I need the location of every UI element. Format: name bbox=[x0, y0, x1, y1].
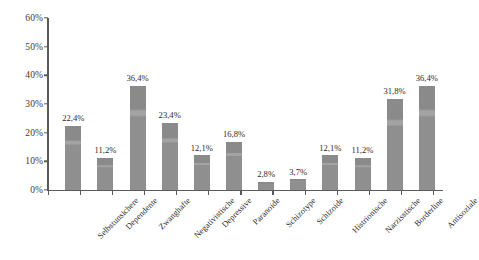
bar-value-label: 22,4% bbox=[62, 113, 84, 123]
bar[interactable] bbox=[226, 142, 242, 190]
x-axis-category-labels: SelbstunsichereDependenteZwanghafteNegat… bbox=[47, 196, 447, 258]
x-axis-tick-mark bbox=[305, 191, 306, 196]
x-axis-tick-mark bbox=[112, 191, 113, 196]
y-axis-tick-label: 0% bbox=[30, 185, 43, 195]
bar-group: 12,1% bbox=[314, 18, 346, 190]
bar[interactable] bbox=[65, 126, 81, 190]
bar[interactable] bbox=[258, 182, 274, 190]
y-axis-tick-mark bbox=[44, 75, 48, 76]
bar[interactable] bbox=[419, 86, 435, 190]
bar[interactable] bbox=[322, 155, 338, 190]
bar-group: 2,8% bbox=[250, 18, 282, 190]
bar-group: 3,7% bbox=[282, 18, 314, 190]
y-axis-tick-label: 50% bbox=[25, 42, 43, 52]
x-axis-tick-mark bbox=[80, 191, 81, 196]
y-axis-tick-mark bbox=[44, 46, 48, 47]
bar-group: 12,1% bbox=[186, 18, 218, 190]
bar[interactable] bbox=[290, 179, 306, 190]
x-axis-tick-mark bbox=[208, 191, 209, 196]
x-axis-tick-mark bbox=[144, 191, 145, 196]
bar-value-label: 11,2% bbox=[95, 145, 117, 155]
x-axis-tick-mark bbox=[272, 191, 273, 196]
bar-group: 31,8% bbox=[379, 18, 411, 190]
bar-value-label: 16,8% bbox=[223, 129, 245, 139]
bars-container: 22,4%11,2%36,4%23,4%12,1%16,8%2,8%3,7%12… bbox=[47, 18, 447, 190]
bar-value-label: 3,7% bbox=[289, 167, 307, 177]
x-axis-tick-mark bbox=[337, 191, 338, 196]
x-axis-tick-mark bbox=[433, 191, 434, 196]
bar-value-label: 36,4% bbox=[416, 73, 438, 83]
x-axis-tick-mark bbox=[369, 191, 370, 196]
x-axis-tick-mark bbox=[401, 191, 402, 196]
bar-value-label: 2,8% bbox=[257, 169, 275, 179]
y-axis-tick-label: 60% bbox=[25, 13, 43, 23]
bar[interactable] bbox=[130, 86, 146, 190]
x-axis-tick-mark bbox=[240, 191, 241, 196]
bar-value-label: 23,4% bbox=[159, 110, 181, 120]
y-axis-tick-label: 40% bbox=[25, 70, 43, 80]
y-axis-ticks: 0%10%20%30%40%50%60% bbox=[0, 0, 43, 208]
bar-group: 22,4% bbox=[57, 18, 89, 190]
bar-group: 36,4% bbox=[411, 18, 443, 190]
bar-group: 36,4% bbox=[122, 18, 154, 190]
bar-value-label: 31,8% bbox=[384, 86, 406, 96]
bar[interactable] bbox=[97, 158, 113, 190]
bar-value-label: 12,1% bbox=[319, 143, 341, 153]
y-axis-tick-label: 10% bbox=[25, 156, 43, 166]
y-axis-tick-label: 20% bbox=[25, 128, 43, 138]
x-axis-category-label: Schizotype bbox=[284, 196, 317, 229]
bar-group: 23,4% bbox=[154, 18, 186, 190]
y-axis-tick-label: 30% bbox=[25, 99, 43, 109]
bar[interactable] bbox=[387, 99, 403, 190]
bar-group: 11,2% bbox=[346, 18, 378, 190]
x-axis-category-label: Paranoide bbox=[251, 196, 282, 227]
y-axis-tick-mark bbox=[44, 17, 48, 18]
bar-value-label: 11,2% bbox=[352, 145, 374, 155]
bar[interactable] bbox=[162, 123, 178, 190]
bar[interactable] bbox=[194, 155, 210, 190]
x-axis-category-label: Zwanghafte bbox=[157, 196, 192, 231]
x-axis-category-label: Schizoide bbox=[315, 196, 345, 226]
x-axis-tick-mark bbox=[48, 191, 49, 196]
bar-value-label: 12,1% bbox=[191, 143, 213, 153]
bar[interactable] bbox=[355, 158, 371, 190]
y-axis-tick-mark bbox=[44, 103, 48, 104]
y-axis-tick-mark bbox=[44, 161, 48, 162]
y-axis-tick-mark bbox=[44, 132, 48, 133]
bar-group: 16,8% bbox=[218, 18, 250, 190]
bar-value-label: 36,4% bbox=[126, 73, 148, 83]
bar-group: 11,2% bbox=[89, 18, 121, 190]
x-axis-tick-mark bbox=[176, 191, 177, 196]
x-axis-category-label: Antisoziale bbox=[445, 196, 479, 230]
